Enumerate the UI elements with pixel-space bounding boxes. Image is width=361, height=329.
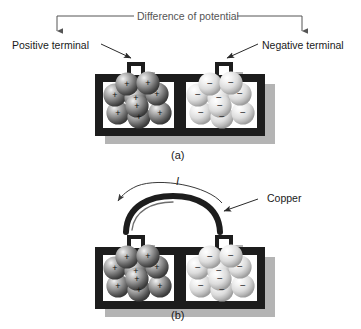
copper-label: Copper [267,193,301,204]
physics-figure-battery-potential: + + + + + + + + + [0,0,361,329]
panel-b-caption: (b) [171,310,184,321]
current-direction-arrow [118,182,222,203]
terminal-leader-lines [101,44,258,58]
copper-wire-arc [126,196,220,232]
current-label: I [176,176,179,187]
potential-difference-label: Difference of potential [137,11,239,22]
positive-terminal-label: Positive terminal [12,40,89,51]
panel-a-caption: (a) [171,150,184,161]
copper-leader-line [224,199,258,211]
negative-terminal-label: Negative terminal [262,40,344,51]
